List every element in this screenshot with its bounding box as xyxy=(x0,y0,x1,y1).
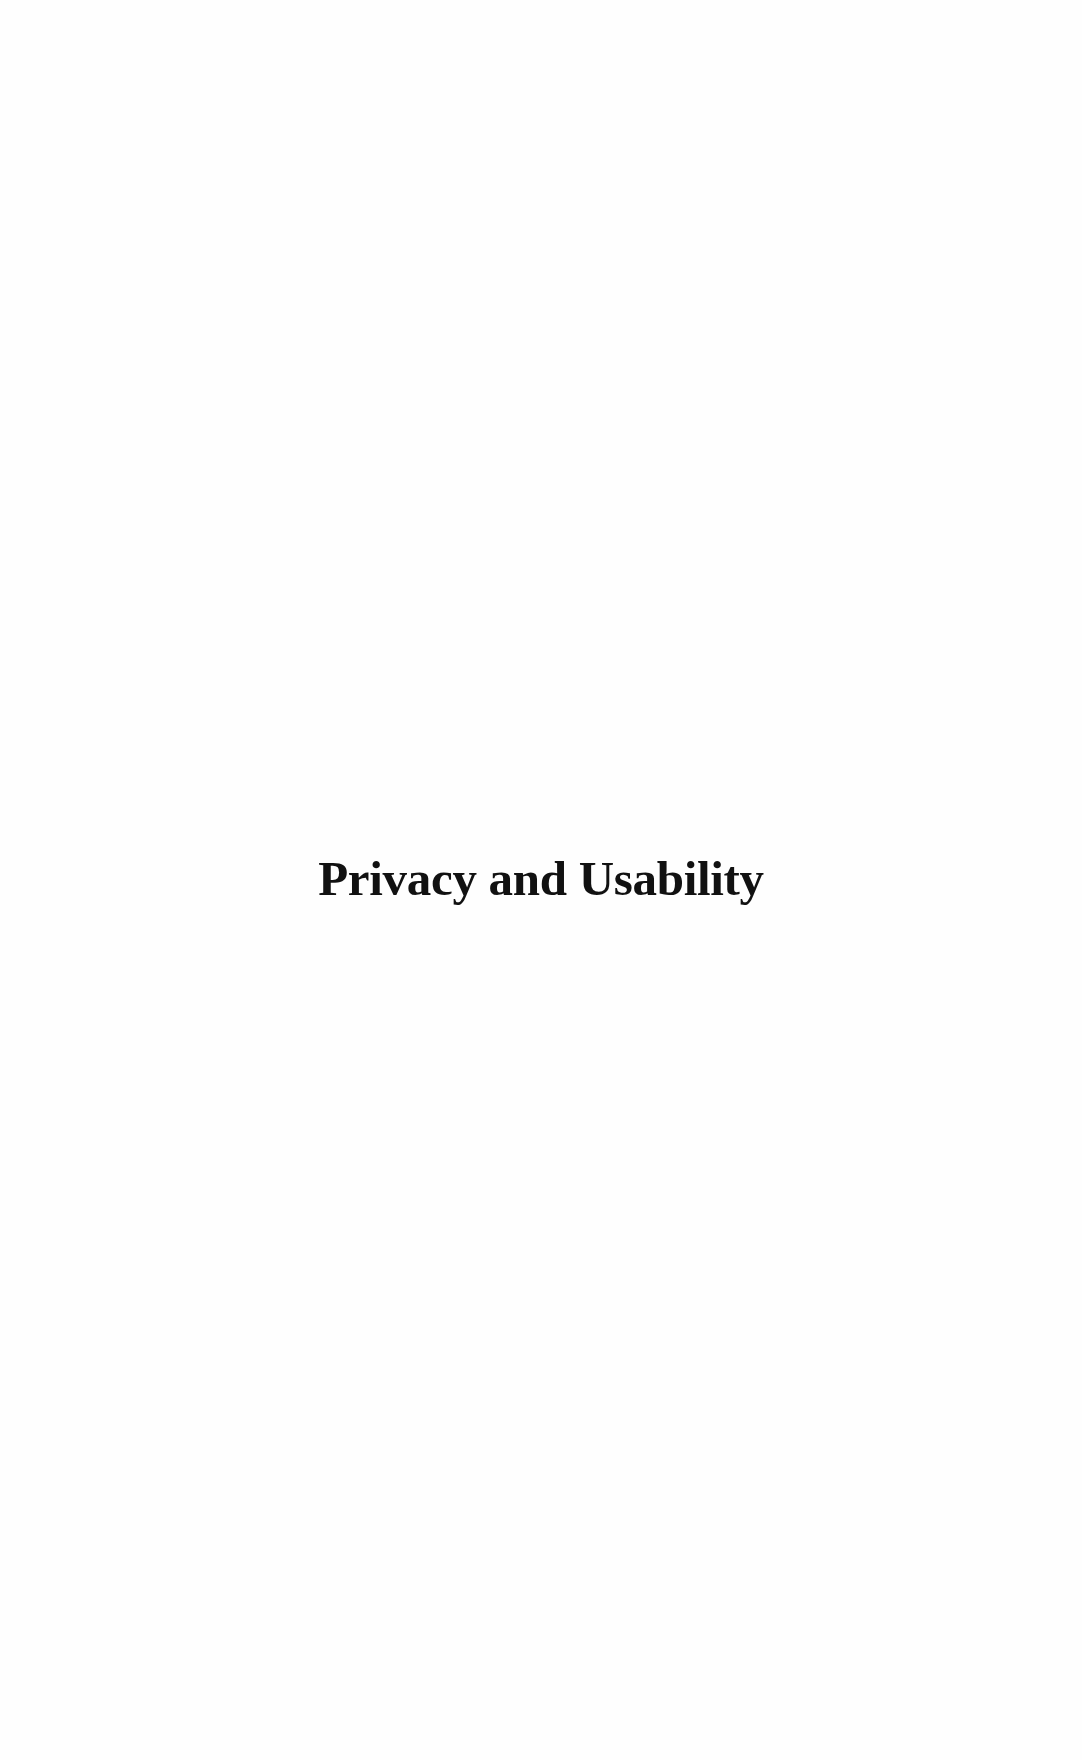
document-page: Privacy and Usability xyxy=(0,0,1082,1760)
page-title: Privacy and Usability xyxy=(0,851,1082,907)
